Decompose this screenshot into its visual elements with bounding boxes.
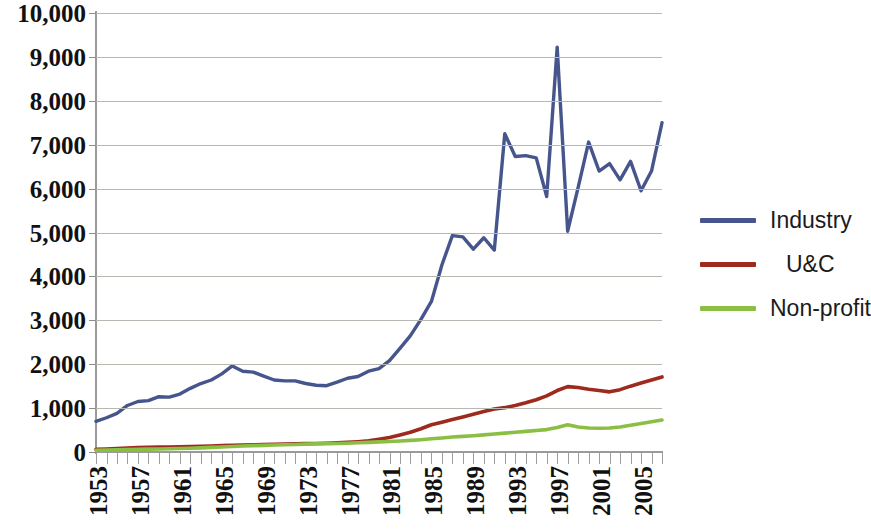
x-axis-tick-mark	[547, 453, 548, 464]
y-axis-tick-label: 6,000	[30, 176, 86, 201]
x-axis-tick-mark	[127, 453, 128, 464]
x-axis-tick-mark	[295, 453, 296, 464]
x-axis-tick-mark	[662, 453, 663, 464]
gridline	[96, 145, 662, 146]
y-axis-tick-mark	[89, 13, 96, 14]
x-axis: 1953195719611965196919731977198119851989…	[96, 466, 662, 532]
x-axis-tick-mark	[526, 453, 527, 464]
gridline	[96, 364, 662, 365]
x-axis-tick-mark	[107, 453, 108, 464]
chart-legend: IndustryU&CNon-profit	[700, 205, 864, 340]
x-axis-ticks	[96, 453, 662, 466]
y-axis-tick-mark	[89, 408, 96, 409]
x-axis-tick-mark	[222, 453, 223, 464]
x-axis-tick-mark	[148, 453, 149, 464]
x-axis-tick-mark	[201, 453, 202, 464]
x-axis-tick-mark	[578, 453, 579, 464]
legend-item-u-c[interactable]: U&C	[700, 249, 835, 279]
x-axis-tick-mark	[452, 453, 453, 464]
x-axis-tick-label: 1953	[86, 466, 111, 516]
x-axis-tick-mark	[169, 453, 170, 464]
gridline	[96, 101, 662, 102]
x-axis-tick-label: 1981	[379, 466, 404, 516]
x-axis-tick-mark	[274, 453, 275, 464]
x-axis-tick-mark	[631, 453, 632, 464]
legend-item-industry[interactable]: Industry	[700, 205, 852, 235]
y-axis-tick-label: 0	[74, 440, 87, 465]
x-axis-tick-mark	[410, 453, 411, 464]
x-axis-tick-label: 1977	[337, 466, 362, 516]
x-axis-tick-mark	[431, 453, 432, 464]
x-axis-tick-mark	[641, 453, 642, 464]
x-axis-tick-mark	[589, 453, 590, 464]
x-axis-tick-mark	[442, 453, 443, 464]
x-axis-tick-label: 1973	[295, 466, 320, 516]
x-axis-tick-label: 1965	[211, 466, 236, 516]
y-axis-tick-label: 3,000	[30, 308, 86, 333]
x-axis-tick-mark	[306, 453, 307, 464]
x-axis-tick-mark	[285, 453, 286, 464]
x-axis-tick-mark	[232, 453, 233, 464]
x-axis-tick-label: 1993	[505, 466, 530, 516]
x-axis-tick-label: 2005	[631, 466, 656, 516]
x-axis-tick-label: 1989	[463, 466, 488, 516]
x-axis-tick-label: 1969	[253, 466, 278, 516]
legend-swatch-icon	[700, 262, 756, 267]
x-axis-tick-mark	[379, 453, 380, 464]
x-axis-tick-mark	[599, 453, 600, 464]
y-axis-tick-mark	[89, 145, 96, 146]
x-axis-tick-mark	[337, 453, 338, 464]
x-axis-tick-mark	[610, 453, 611, 464]
legend-item-non-profit[interactable]: Non-profit	[700, 293, 871, 323]
x-axis-tick-mark	[180, 453, 181, 464]
x-axis-tick-label: 1957	[127, 466, 152, 516]
x-axis-tick-mark	[253, 453, 254, 464]
gridline	[96, 408, 662, 409]
x-axis-tick-mark	[316, 453, 317, 464]
x-axis-tick-mark	[159, 453, 160, 464]
x-axis-tick-mark	[390, 453, 391, 464]
series-line-u-c	[96, 377, 662, 449]
x-axis-tick-mark	[243, 453, 244, 464]
x-axis-tick-mark	[138, 453, 139, 464]
x-axis-tick-mark	[369, 453, 370, 464]
y-axis-tick-mark	[89, 276, 96, 277]
series-line-industry	[96, 47, 662, 421]
x-axis-tick-mark	[96, 453, 97, 464]
x-axis-tick-mark	[400, 453, 401, 464]
x-axis-tick-mark	[484, 453, 485, 464]
gridline	[96, 189, 662, 190]
y-axis-tick-label: 4,000	[30, 264, 86, 289]
y-axis-tick-label: 10,000	[17, 1, 86, 26]
legend-swatch-icon	[700, 306, 756, 311]
x-axis-tick-mark	[358, 453, 359, 464]
y-axis-tick-mark	[89, 364, 96, 365]
x-axis-tick-mark	[652, 453, 653, 464]
x-axis-tick-mark	[211, 453, 212, 464]
legend-label: Non-profit	[770, 295, 871, 322]
plot-area	[96, 13, 662, 452]
gridline	[96, 57, 662, 58]
y-axis-tick-label: 8,000	[30, 88, 86, 113]
x-axis-tick-mark	[620, 453, 621, 464]
y-axis-tick-label: 5,000	[30, 220, 86, 245]
y-axis-tick-mark	[89, 101, 96, 102]
gridline	[96, 320, 662, 321]
x-axis-tick-mark	[463, 453, 464, 464]
x-axis-tick-label: 1961	[169, 466, 194, 516]
x-axis-tick-mark	[557, 453, 558, 464]
x-axis-tick-mark	[536, 453, 537, 464]
y-axis: 10,0009,0008,0007,0006,0005,0004,0003,00…	[0, 0, 90, 532]
x-axis-tick-mark	[421, 453, 422, 464]
x-axis-tick-mark	[348, 453, 349, 464]
gridline	[96, 13, 662, 14]
gridline	[96, 276, 662, 277]
y-axis-tick-label: 1,000	[30, 396, 86, 421]
y-axis-tick-mark	[89, 233, 96, 234]
y-axis-tick-label: 2,000	[30, 352, 86, 377]
y-axis-tick-label: 9,000	[30, 44, 86, 69]
x-axis-tick-mark	[568, 453, 569, 464]
x-axis-tick-label: 2001	[589, 466, 614, 516]
y-axis-tick-mark	[89, 189, 96, 190]
